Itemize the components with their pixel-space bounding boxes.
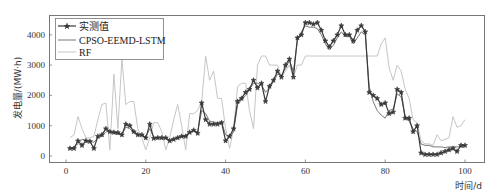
x-axis-title: 时间/d [455,180,482,191]
y-tick-label: 2000 [27,90,46,100]
y-tick-label: 1000 [27,121,46,131]
y-tick-label: 0 [41,151,46,161]
x-tick-label: 40 [221,166,231,176]
y-tick-label: 3000 [27,60,46,70]
x-tick-label: 100 [458,166,472,176]
line-chart: 02040608010001000200030004000 时间/d 发电量/(… [0,0,499,195]
y-tick-label: 4000 [27,30,46,40]
legend: 实测值 CPSO-EEMD-LSTM RF [56,19,166,60]
x-tick-label: 80 [381,166,391,176]
x-tick-label: 60 [301,166,311,176]
x-tick-label: 20 [141,166,151,176]
y-axis-title: 发电量/(MW·h) [12,57,23,119]
x-tick-label: 0 [64,166,69,176]
svg-text:CPSO-EEMD-LSTM: CPSO-EEMD-LSTM [79,35,166,46]
svg-text:RF: RF [79,47,92,58]
svg-text:实测值: 实测值 [79,20,109,32]
